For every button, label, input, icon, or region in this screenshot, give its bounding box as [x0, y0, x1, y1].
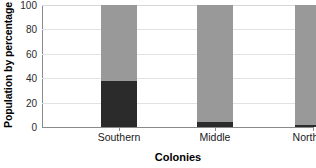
gridline: 60	[42, 54, 314, 55]
gridline: 80	[42, 29, 314, 30]
bar-segment[interactable]	[197, 5, 233, 122]
bar-stack[interactable]	[295, 5, 316, 127]
bar-stack[interactable]	[197, 5, 233, 127]
x-tick-label-southern: Southern	[79, 131, 159, 143]
y-axis-title: Population by percentage	[0, 0, 16, 130]
y-tick-label: 20	[26, 97, 37, 108]
bar-group[interactable]	[101, 5, 137, 127]
bar-group[interactable]	[295, 5, 316, 127]
gridline: 40	[42, 78, 314, 79]
bar-segment[interactable]	[101, 5, 137, 81]
gridline: 20	[42, 103, 314, 104]
y-tick-label: 40	[26, 73, 37, 84]
gridline: 100	[42, 5, 314, 6]
gridline: 0	[42, 127, 314, 128]
bar-segment[interactable]	[295, 125, 316, 127]
bar-stack[interactable]	[101, 5, 137, 127]
y-tick-label: 100	[20, 0, 37, 11]
bar-segment[interactable]	[101, 81, 137, 127]
x-tick-label-middle: Middle	[175, 131, 255, 143]
x-axis-title: Colonies	[42, 151, 314, 163]
bar-segment[interactable]	[197, 122, 233, 127]
plot-area: 020406080100	[42, 5, 314, 127]
y-tick-label: 60	[26, 48, 37, 59]
y-axis-spine	[42, 5, 43, 128]
y-axis-title-text: Population by percentage	[2, 2, 14, 128]
x-tick-label-northern: Northern	[273, 131, 316, 143]
stacked-bar-chart: Population by percentage 020406080100 So…	[0, 0, 316, 168]
bar-segment[interactable]	[295, 5, 316, 125]
y-tick-label: 0	[31, 122, 37, 133]
y-tick-label: 80	[26, 24, 37, 35]
bar-group[interactable]	[197, 5, 233, 127]
